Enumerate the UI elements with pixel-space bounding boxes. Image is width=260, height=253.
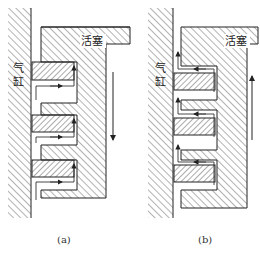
piston-ring-diagram: 气 缸 活塞 (a) 气 缸 活塞 (b) [0, 0, 260, 253]
piston-ring-3 [32, 160, 74, 177]
piston-ring-1 [32, 62, 74, 80]
caption-a: (a) [57, 234, 71, 245]
piston-label-a: 活塞 [81, 34, 103, 48]
caption-b: (b) [198, 234, 212, 245]
cylinder-wall [8, 8, 31, 218]
piston-ring-1 [174, 73, 215, 90]
panel-b: 气 缸 活塞 (b) [148, 8, 258, 245]
cylinder-label-a-1: 气 [13, 61, 24, 75]
cylinder-wall [148, 8, 173, 218]
piston-label-b: 活塞 [225, 34, 247, 48]
piston-ring-3 [174, 165, 215, 182]
cylinder-label-a-2: 缸 [13, 75, 24, 89]
cylinder-label-b-2: 缸 [155, 75, 166, 89]
cylinder-label-b-1: 气 [155, 61, 166, 75]
flow-arrows-a [36, 66, 74, 200]
piston-ring-2 [174, 118, 215, 135]
piston-ring-2 [32, 115, 74, 132]
panel-a: 气 缸 活塞 (a) [8, 8, 130, 245]
